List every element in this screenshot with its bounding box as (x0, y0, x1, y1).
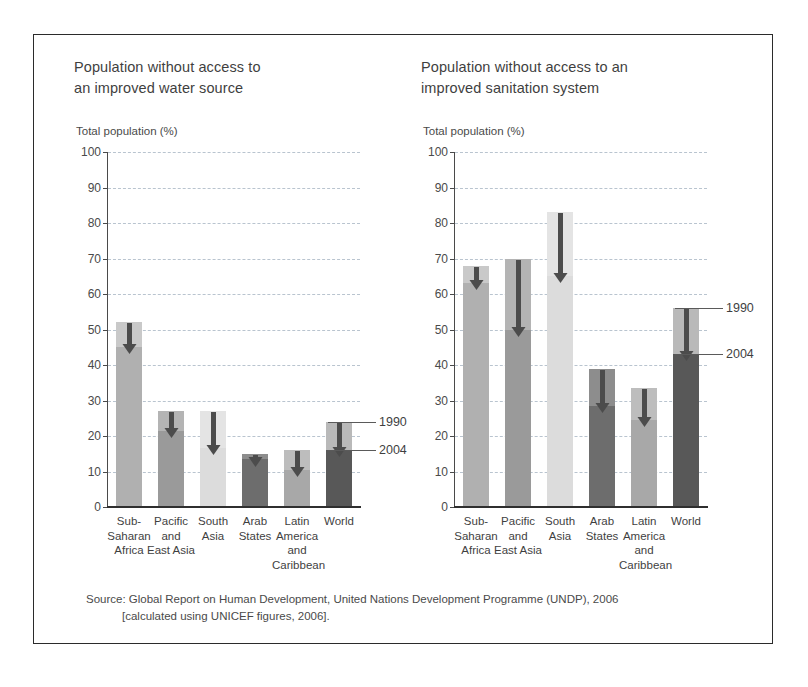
chart-panel-water: Population without access to an improved… (52, 35, 412, 595)
change-arrow-water-4 (293, 451, 302, 477)
plot-area-sanitation: 0102030405060708090100Sub-SaharanAfricaP… (455, 152, 707, 507)
chart-title-sanitation-line1: Population without access to an (421, 57, 741, 78)
bar-segment-2004 (200, 448, 226, 507)
arrow-head-icon (122, 344, 136, 354)
arrow-head-icon (553, 273, 567, 283)
change-arrow-sanitation-4 (640, 389, 649, 427)
change-arrow-sanitation-3 (598, 370, 607, 413)
x-axis-category-line: America (619, 529, 669, 544)
arrow-shaft (684, 309, 689, 351)
legend-label-2004: 2004 (726, 347, 754, 361)
x-axis-category-line: Caribbean (619, 558, 669, 573)
change-arrow-sanitation-0 (472, 267, 481, 291)
y-axis-tick-label: 60 (435, 287, 448, 301)
source-note: Source: Global Report on Human Developme… (86, 591, 736, 625)
y-axis-tick-label: 100 (428, 145, 448, 159)
y-axis-tick-label: 60 (88, 287, 101, 301)
chart-title-sanitation: Population without access to an improved… (421, 57, 741, 99)
arrow-shaft (337, 423, 342, 447)
gridline (108, 401, 360, 402)
y-axis-tick-label: 10 (435, 465, 448, 479)
legend-connector-1990 (328, 422, 376, 423)
arrow-shaft (127, 323, 132, 344)
gridline (455, 259, 707, 260)
bar-segment-2004 (116, 347, 142, 507)
x-axis-category-line: World (661, 514, 711, 529)
arrow-shaft (600, 370, 605, 403)
y-axis-tick-label: 90 (435, 181, 448, 195)
x-axis-category-line: East Asia (493, 543, 543, 558)
chart-title-water: Population without access to an improved… (74, 57, 394, 99)
change-arrow-water-2 (209, 412, 218, 455)
arrow-head-icon (511, 327, 525, 337)
arrow-head-icon (290, 467, 304, 477)
arrow-head-icon (637, 417, 651, 427)
y-axis-tick-label: 0 (441, 500, 448, 514)
plot-area-water: 0102030405060708090100Sub-SaharanAfricaP… (108, 152, 360, 507)
y-axis-tick-label: 20 (88, 429, 101, 443)
gridline (108, 259, 360, 260)
gridline (108, 436, 360, 437)
legend-connector-2004 (328, 450, 376, 451)
x-axis-category-line: East Asia (146, 543, 196, 558)
change-arrow-water-0 (125, 323, 134, 354)
x-axis-category-line: and (619, 543, 669, 558)
arrow-head-icon (164, 428, 178, 438)
arrow-shaft (558, 213, 563, 273)
arrow-shaft (642, 389, 647, 417)
y-axis-tick-label: 80 (88, 216, 101, 230)
arrow-shaft (474, 267, 479, 281)
gridline (108, 472, 360, 473)
x-axis-category-line: World (314, 514, 364, 529)
x-axis-category-label: World (661, 514, 711, 529)
legend-label-1990: 1990 (726, 301, 754, 315)
gridline (108, 365, 360, 366)
arrow-head-icon (206, 445, 220, 455)
y-axis-tick-label: 30 (88, 394, 101, 408)
change-arrow-water-1 (167, 412, 176, 438)
bar-sanitation-0[interactable] (463, 266, 489, 507)
gridline (455, 401, 707, 402)
arrow-head-icon (332, 447, 346, 457)
arrow-head-icon (469, 280, 483, 290)
chart-title-water-line2: an improved water source (74, 78, 394, 99)
arrow-head-icon (679, 351, 693, 361)
x-axis-line-water (107, 506, 361, 508)
y-axis-tick-label: 20 (435, 429, 448, 443)
bar-segment-2004 (505, 330, 531, 508)
top-edge-artifact (330, 0, 480, 8)
y-axis-tick-label: 70 (88, 252, 101, 266)
gridline (455, 294, 707, 295)
chart-title-sanitation-line2: improved sanitation system (421, 78, 741, 99)
x-axis-category-line: America (272, 529, 322, 544)
y-axis-tick-label: 80 (435, 216, 448, 230)
gridline (108, 330, 360, 331)
gridline (108, 223, 360, 224)
y-axis-tick-label: 10 (88, 465, 101, 479)
gridline (108, 294, 360, 295)
chart-title-water-line1: Population without access to (74, 57, 394, 78)
gridline (455, 223, 707, 224)
x-axis-category-line: Caribbean (272, 558, 322, 573)
bar-segment-2004 (463, 283, 489, 507)
y-axis-tick-label: 50 (88, 323, 101, 337)
chart-panels: Population without access to an improved… (34, 35, 772, 643)
x-axis-category-label: World (314, 514, 364, 529)
gridline (455, 365, 707, 366)
gridline (108, 152, 360, 153)
arrow-shaft (516, 260, 521, 327)
gridline (108, 188, 360, 189)
gridline (455, 436, 707, 437)
bar-segment-2004 (158, 431, 184, 507)
y-axis-tick-label: 40 (88, 358, 101, 372)
change-arrow-sanitation-2 (556, 213, 565, 283)
arrow-head-icon (248, 457, 262, 467)
legend-connector-1990 (675, 308, 723, 309)
y-axis-tick-label: 50 (435, 323, 448, 337)
change-arrow-water-5 (335, 423, 344, 457)
y-axis-tick-label: 100 (81, 145, 101, 159)
arrow-head-icon (595, 403, 609, 413)
gridline (455, 330, 707, 331)
bar-segment-2004 (326, 450, 352, 507)
x-axis-line-sanitation (454, 506, 708, 508)
